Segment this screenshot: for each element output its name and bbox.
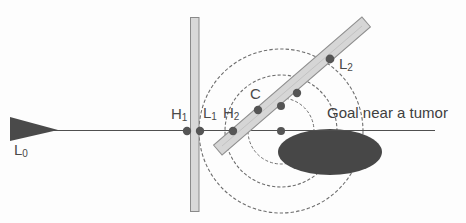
label-goal: Goal near a tumor — [327, 105, 448, 120]
label-l2-sub: 2 — [347, 62, 353, 73]
membrane-bar — [191, 18, 200, 212]
probe-triangle-icon — [10, 117, 58, 141]
label-h2-text: H — [223, 104, 234, 121]
label-h1-text: H — [171, 105, 182, 122]
dot-l2 — [326, 55, 335, 64]
label-l1-sub: 1 — [211, 111, 217, 122]
label-h1: H1 — [171, 106, 187, 121]
label-l0-sub: 0 — [22, 148, 28, 159]
label-l2: L2 — [339, 56, 353, 71]
label-h2-sub: 2 — [234, 111, 240, 122]
label-h1-sub: 1 — [182, 112, 188, 123]
label-c-text: C — [250, 85, 261, 102]
beam-centerline — [222, 26, 362, 146]
label-h2: H2 — [223, 105, 239, 120]
dot-l1 — [196, 127, 204, 135]
label-l1: L1 — [203, 105, 217, 120]
label-l0: L0 — [14, 142, 28, 157]
label-c: C — [250, 86, 261, 101]
dot-h2 — [229, 127, 237, 135]
dot-beam-1 — [254, 106, 262, 114]
figure-canvas: L0 H1 L1 H2 C L2 Goal near a tumor — [0, 0, 466, 223]
dot-h1 — [183, 127, 191, 135]
tumor-ellipse — [278, 129, 382, 175]
dot-beam-3 — [293, 89, 301, 97]
